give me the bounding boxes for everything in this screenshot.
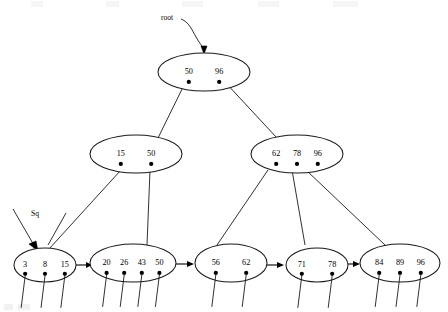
- node-key-leaf-1-2: 15: [61, 260, 69, 269]
- node-key-internal-right-1: 78: [293, 149, 301, 158]
- node-key-leaf-2-1: 26: [120, 258, 128, 267]
- node-key-internal-left-0: 15: [117, 149, 125, 158]
- node-key-leaf-3-0: 56: [212, 258, 220, 267]
- tree-node-leaf-4[interactable]: 7178: [286, 248, 348, 308]
- node-pointer-dot-leaf-3-0[interactable]: [214, 271, 218, 275]
- node-pointer-dot-leaf-5-0[interactable]: [377, 271, 381, 275]
- tree-node-leaf-3[interactable]: 5662: [195, 244, 267, 307]
- tree-node-internal-right[interactable]: 627896: [251, 135, 343, 173]
- node-key-leaf-3-1: 62: [242, 258, 250, 267]
- node-key-leaf-5-2: 96: [417, 258, 425, 267]
- node-pointer-dot-leaf-1-0[interactable]: [23, 272, 27, 276]
- node-key-leaf-2-3: 50: [155, 258, 163, 267]
- node-key-leaf-4-1: 78: [328, 260, 336, 269]
- tree-node-leaf-1[interactable]: 3815: [14, 248, 76, 308]
- node-key-leaf-5-0: 84: [375, 258, 383, 267]
- node-pointer-dot-leaf-5-1[interactable]: [398, 271, 402, 275]
- root-label: root: [161, 13, 174, 22]
- node-pointer-dot-leaf-5-2[interactable]: [419, 271, 423, 275]
- edge-internal-right-p0-to-leaf-3: [217, 170, 268, 245]
- node-pointer-dot-leaf-1-2[interactable]: [63, 272, 67, 276]
- edge-internal-right-p2-to-leaf-5: [306, 170, 385, 245]
- node-pointer-dot-leaf-2-0[interactable]: [105, 271, 109, 275]
- node-pointer-dot-internal-right-0[interactable]: [274, 162, 278, 166]
- record-pointer-line-leaf-2-3: [155, 275, 159, 307]
- sequence-callout: Sq: [13, 209, 66, 251]
- edge-internal-left-p0-to-leaf-1: [49, 170, 121, 249]
- record-pointer-line-leaf-5-0: [375, 275, 379, 307]
- record-pointer-line-leaf-2-0: [103, 275, 107, 307]
- node-pointer-dot-root-1[interactable]: [217, 80, 221, 84]
- tree-node-internal-left[interactable]: 1550: [90, 135, 182, 173]
- seq-arrowhead-3: [277, 262, 284, 268]
- node-ellipse-root: [158, 53, 250, 91]
- node-pointer-dot-leaf-2-1[interactable]: [122, 271, 126, 275]
- record-pointer-line-leaf-4-0: [298, 276, 302, 308]
- node-pointer-dot-internal-right-1[interactable]: [295, 162, 299, 166]
- tree-node-root[interactable]: 5096: [158, 53, 250, 91]
- btree-svg: root Sq 50961550627896381520264350566271…: [0, 0, 448, 312]
- node-pointer-dot-leaf-4-0[interactable]: [300, 272, 304, 276]
- node-key-leaf-2-0: 20: [103, 258, 111, 267]
- tree-node-leaf-5[interactable]: 848996: [360, 244, 440, 307]
- node-pointer-dot-leaf-4-1[interactable]: [330, 272, 334, 276]
- node-ellipse-internal-left: [90, 135, 182, 173]
- edges-internal-left-to-leaves: [49, 170, 150, 249]
- node-key-leaf-1-0: 3: [23, 260, 27, 269]
- edges-internal-right-to-leaves: [217, 170, 385, 245]
- edge-root-p0-to-internal-left: [158, 81, 186, 138]
- edge-root-p1-to-internal-right: [224, 81, 277, 138]
- node-pointer-dot-root-0[interactable]: [187, 80, 191, 84]
- node-ellipse-leaf-4: [286, 248, 348, 282]
- node-key-leaf-5-1: 89: [396, 258, 404, 267]
- node-key-root-1: 96: [215, 67, 223, 76]
- node-ellipse-leaf-3: [195, 244, 267, 282]
- node-key-leaf-1-1: 8: [43, 260, 47, 269]
- tree-node-leaf-2[interactable]: 20264350: [90, 244, 176, 307]
- record-pointer-line-leaf-1-2: [61, 276, 65, 308]
- node-key-internal-left-1: 50: [147, 149, 155, 158]
- node-pointer-dot-internal-left-1[interactable]: [149, 162, 153, 166]
- root-callout-curve: [181, 19, 204, 52]
- node-key-leaf-4-0: 71: [298, 260, 306, 269]
- root-callout: root: [161, 13, 207, 54]
- node-pointer-dot-internal-left-0[interactable]: [119, 162, 123, 166]
- node-pointer-dot-leaf-2-2[interactable]: [140, 271, 144, 275]
- node-pointer-dot-leaf-1-1[interactable]: [43, 272, 47, 276]
- edge-internal-left-p1-to-leaf-2: [147, 170, 150, 245]
- node-key-root-0: 50: [185, 67, 193, 76]
- seq-arrowhead-4: [353, 261, 360, 267]
- node-pointer-dot-internal-right-2[interactable]: [316, 162, 320, 166]
- node-key-leaf-2-2: 43: [138, 258, 146, 267]
- btree-diagram-canvas: root Sq 50961550627896381520264350566271…: [0, 0, 448, 312]
- record-pointer-line-leaf-1-0: [21, 276, 25, 308]
- node-pointer-dot-leaf-2-3[interactable]: [157, 271, 161, 275]
- tree-nodes-layer: 5096155062789638152026435056627178848996: [14, 53, 440, 308]
- node-pointer-dot-leaf-3-1[interactable]: [244, 271, 248, 275]
- seq-arrowhead-2: [187, 261, 194, 267]
- node-key-internal-right-2: 96: [314, 149, 322, 158]
- sequence-label: Sq: [31, 209, 39, 218]
- node-key-internal-right-0: 62: [272, 149, 280, 158]
- edge-internal-right-p1-to-leaf-4: [292, 170, 305, 245]
